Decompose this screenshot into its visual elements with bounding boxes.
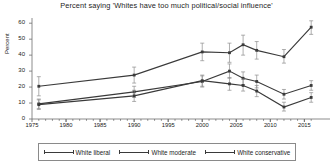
x-tick-label: 2015 (291, 122, 317, 128)
legend-item-label: White moderate (151, 149, 195, 156)
legend-item-label: White liberal (76, 149, 111, 156)
chart-legend: White liberal White moderate White conse… (38, 143, 296, 161)
x-tick-label: 2000 (189, 122, 215, 128)
legend-item: White moderate (119, 149, 195, 156)
legend-item-label: White conservative (237, 149, 290, 156)
x-tick-label: 2010 (257, 122, 283, 128)
legend-item: White conservative (205, 149, 290, 156)
chart-canvas (0, 14, 333, 122)
legend-line-icon (119, 152, 149, 153)
x-tick-label: 2005 (223, 122, 249, 128)
series-3 (37, 75, 313, 111)
chart-figure: Percent saying 'Whites have too much pol… (0, 0, 333, 165)
legend-line-icon (44, 152, 74, 153)
x-tick-label: 1985 (87, 122, 113, 128)
plot-area (0, 14, 333, 122)
x-tick-label: 1975 (19, 122, 45, 128)
legend-line-icon (205, 152, 235, 153)
x-tick-label: 1995 (155, 122, 181, 128)
series-1 (37, 21, 313, 96)
x-tick-label: 1980 (53, 122, 79, 128)
legend-item: White liberal (44, 149, 111, 156)
x-tick-label: 1990 (121, 122, 147, 128)
chart-title: Percent saying 'Whites have too much pol… (0, 1, 333, 10)
